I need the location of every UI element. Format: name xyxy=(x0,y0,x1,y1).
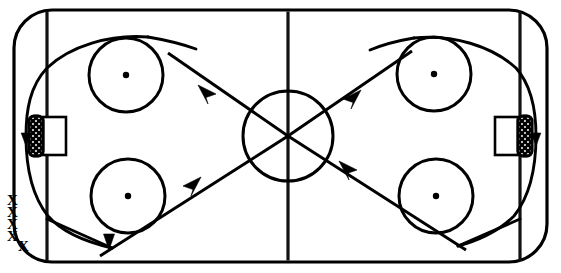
faceoff-dot-top-left xyxy=(123,72,129,78)
hockey-drill-diagram: X X X X X xyxy=(0,0,561,273)
player-x-mark: X xyxy=(18,238,29,254)
rink-svg: X X X X X xyxy=(0,0,561,273)
faceoff-dot-top-right xyxy=(431,71,437,77)
faceoff-dot-bottom-right xyxy=(433,193,439,199)
faceoff-dot-bottom-left xyxy=(125,193,131,199)
player-x-mark: X xyxy=(7,228,18,244)
rink-boards xyxy=(14,10,547,262)
goal-crease-left xyxy=(43,117,66,155)
goal-crease-right xyxy=(495,117,518,155)
